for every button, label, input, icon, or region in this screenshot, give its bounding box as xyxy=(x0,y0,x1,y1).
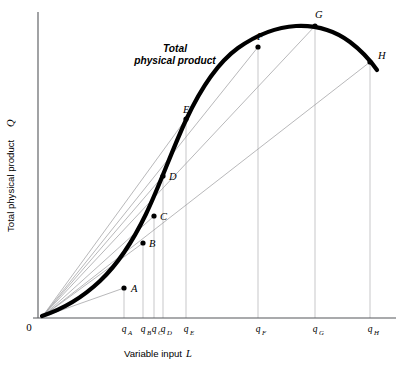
x-tick-H: qH xyxy=(368,324,380,336)
point-dot-B xyxy=(140,240,145,245)
x-tick-q-D: q xyxy=(161,324,166,334)
point-label-A: A xyxy=(130,283,138,294)
curve-annotation-line1: Total xyxy=(163,43,187,54)
x-tick-sub-B: B xyxy=(147,329,151,336)
point-label-D: D xyxy=(168,171,177,182)
point-dot-C xyxy=(151,213,156,218)
x-tick-q-H: q xyxy=(368,324,373,334)
drop-lines-group xyxy=(124,26,370,318)
point-dot-D xyxy=(160,173,165,178)
x-tick-A: qA xyxy=(122,324,133,336)
origin-label: 0 xyxy=(26,321,32,333)
x-tick-sub-F: F xyxy=(261,329,267,336)
curve-annotation-line2: physical product xyxy=(133,55,216,66)
x-tick-sub-A: A xyxy=(127,329,133,336)
point-dot-A xyxy=(121,285,126,290)
origin-rays-group xyxy=(42,26,370,317)
point-label-C: C xyxy=(160,211,168,222)
y-axis-symbol: Q xyxy=(5,119,16,127)
origin-ray-H xyxy=(42,62,370,317)
origin-ray-F xyxy=(42,47,258,317)
x-tick-labels-group: qAqBqCqDqEqFqGqH xyxy=(122,324,380,336)
x-axis-symbol: L xyxy=(185,348,192,359)
x-tick-B: qB xyxy=(141,324,152,336)
origin-ray-G xyxy=(42,26,315,317)
y-axis-title: Total physical product xyxy=(5,139,16,232)
x-tick-sub-H: H xyxy=(373,329,380,336)
point-dot-E xyxy=(183,116,188,121)
point-label-H: H xyxy=(377,50,387,61)
x-tick-q-G: q xyxy=(313,324,318,334)
x-tick-sub-E: E xyxy=(189,329,195,336)
x-tick-sub-G: G xyxy=(319,329,324,336)
chart-figure: ABCDEFGH qAqBqCqDqEqFqGqH Total physical… xyxy=(0,0,403,371)
point-dot-H xyxy=(367,59,372,64)
x-tick-q-C: q xyxy=(152,324,157,334)
point-dot-F xyxy=(255,44,260,49)
x-tick-q-B: q xyxy=(141,324,146,334)
x-tick-E: qE xyxy=(184,324,195,336)
x-tick-q-E: q xyxy=(184,324,189,334)
y-axis-title-group: Total physical product Q xyxy=(5,119,16,232)
point-label-F: F xyxy=(256,31,264,42)
tpp-curve xyxy=(42,26,377,316)
point-label-B: B xyxy=(149,238,156,249)
total-physical-product-chart: ABCDEFGH qAqBqCqDqEqFqGqH Total physical… xyxy=(0,0,403,371)
x-tick-G: qG xyxy=(313,324,324,336)
point-label-E: E xyxy=(182,104,190,115)
x-tick-F: qF xyxy=(256,324,267,336)
point-label-G: G xyxy=(315,9,323,20)
x-axis-title: Variable input xyxy=(124,348,182,359)
x-tick-q-A: q xyxy=(122,324,127,334)
point-dot-G xyxy=(312,23,317,28)
x-tick-sub-D: D xyxy=(166,329,172,336)
x-tick-q-F: q xyxy=(256,324,261,334)
